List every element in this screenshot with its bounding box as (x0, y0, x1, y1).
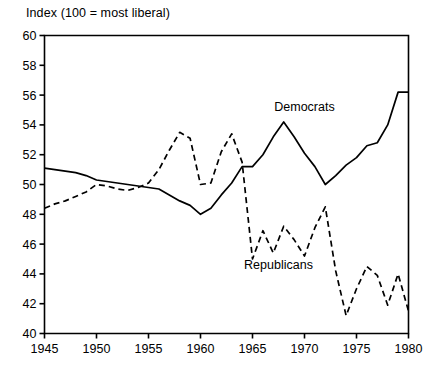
x-axis-tick-label: 1945 (31, 342, 59, 356)
x-axis-tick-label: 1970 (291, 342, 319, 356)
x-axis-tick-label: 1950 (83, 342, 111, 356)
series-label-democrats: Democrats (274, 100, 334, 114)
x-axis-tick-label: 1960 (187, 342, 215, 356)
y-axis-tick-label: 52 (23, 148, 37, 162)
y-axis-tick-label: 50 (23, 178, 37, 192)
y-axis-tick-label: 58 (23, 59, 37, 73)
y-axis-tick-label: 54 (23, 118, 37, 132)
line-chart-plot: 4042444648505254565860194519501955196019… (0, 0, 438, 367)
series-label-republicans: Republicans (244, 258, 313, 272)
y-axis-tick-label: 60 (23, 29, 37, 43)
x-axis-tick-label: 1980 (395, 342, 423, 356)
series-line-democrats (45, 92, 409, 214)
y-axis-tick-label: 42 (23, 297, 37, 311)
y-axis-tick-label: 46 (23, 238, 37, 252)
y-axis-tick-label: 44 (23, 267, 37, 281)
y-axis-tick-label: 48 (23, 208, 37, 222)
y-axis-tick-label: 40 (23, 327, 37, 341)
x-axis-tick-label: 1965 (239, 342, 267, 356)
x-axis-tick-label: 1975 (343, 342, 371, 356)
chart-container: Index (100 = most liberal) 4042444648505… (0, 0, 438, 367)
y-axis-tick-label: 56 (23, 89, 37, 103)
x-axis-tick-label: 1955 (135, 342, 163, 356)
